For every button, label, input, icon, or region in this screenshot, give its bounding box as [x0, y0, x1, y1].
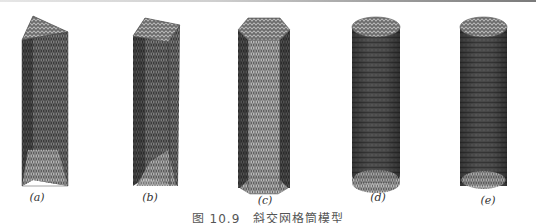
- tube-c-octagonal: [238, 18, 290, 194]
- tube-d-polygonal: [352, 17, 400, 193]
- panel-label-d: (d): [370, 191, 386, 204]
- tube-b-square: [133, 18, 180, 186]
- tube-a-triangular: [22, 16, 68, 186]
- panel-label-a: (a): [29, 191, 44, 204]
- figure-caption: 图 10.9 斜交网格筒模型: [192, 209, 345, 223]
- diagrid-tube-figure: [0, 0, 536, 223]
- panel-label-b: (b): [142, 191, 158, 204]
- tube-e-cylindrical: [460, 17, 507, 189]
- panel-label-e: (e): [480, 194, 495, 207]
- panel-label-c: (c): [258, 194, 273, 207]
